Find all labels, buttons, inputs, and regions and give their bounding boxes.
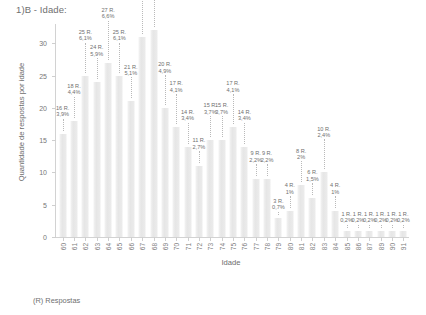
footer-note: (R) Respostas <box>33 296 80 305</box>
bar-group[interactable]: 7211 R.2,7% <box>193 24 204 237</box>
x-axis-tick <box>97 237 98 241</box>
bar[interactable] <box>309 198 316 237</box>
bar-group[interactable]: 793 R.0,7% <box>273 24 284 237</box>
bar-percent-label: 6,1% <box>113 35 126 41</box>
x-axis-tick <box>392 237 393 241</box>
bar-group[interactable]: 911 R.0,2% <box>398 24 409 237</box>
bar-group[interactable]: 6832 R.7,8% <box>148 24 159 237</box>
bar[interactable] <box>332 211 339 237</box>
bar[interactable] <box>93 82 100 237</box>
bar[interactable] <box>184 147 191 237</box>
bar[interactable] <box>82 76 89 237</box>
x-axis-tick-label: 80 <box>286 243 293 250</box>
bar-group[interactable]: 7315 R.3,7% <box>205 24 216 237</box>
bar-value-label: 9 R.2,2% <box>261 150 274 163</box>
y-axis-tick-label: 10 <box>39 172 47 173</box>
bar[interactable] <box>105 63 112 237</box>
x-axis-tick-label: 74 <box>218 243 225 250</box>
bar[interactable] <box>252 179 259 237</box>
bar[interactable] <box>150 30 157 237</box>
bar[interactable] <box>286 211 293 237</box>
bar[interactable] <box>229 127 236 237</box>
label-leader-line <box>301 161 302 182</box>
label-leader-line <box>85 43 86 73</box>
label-leader-line <box>222 116 223 137</box>
bar[interactable] <box>139 37 146 237</box>
bar-group[interactable]: 6118 R.4,4% <box>68 24 79 237</box>
bar-group[interactable]: 6324 R.5,9% <box>91 24 102 237</box>
bar[interactable] <box>161 108 168 237</box>
bar-group[interactable]: 7517 R.4,1% <box>227 24 238 237</box>
bar[interactable] <box>241 147 248 237</box>
bar[interactable] <box>59 134 66 237</box>
bar-value-label: 24 R.5,9% <box>90 44 103 57</box>
x-axis-tick-label: 79 <box>275 243 282 250</box>
bar-group[interactable]: 6525 R.6,1% <box>114 24 125 237</box>
bar-group[interactable]: 6016 R.3,9% <box>57 24 68 237</box>
bar[interactable] <box>127 101 134 237</box>
label-leader-line <box>210 116 211 137</box>
x-axis-tick-label: 78 <box>264 243 271 250</box>
bar-group[interactable]: 851 R.0,2% <box>341 24 352 237</box>
bar[interactable] <box>71 121 78 237</box>
x-axis-tick-label: 71 <box>184 243 191 250</box>
x-axis-tick <box>210 237 211 241</box>
bar[interactable] <box>298 185 305 237</box>
x-axis-tick <box>165 237 166 241</box>
bar-group[interactable]: 861 R.0,2% <box>352 24 363 237</box>
x-axis-tick <box>119 237 120 241</box>
y-axis-tick: 5 <box>52 205 56 206</box>
bar-group[interactable]: 6920 R.4,9% <box>159 24 170 237</box>
bar[interactable] <box>173 127 180 237</box>
bar[interactable] <box>195 166 202 237</box>
bar-group[interactable]: 8310 R.2,4% <box>318 24 329 237</box>
bar[interactable] <box>275 218 282 237</box>
bar[interactable] <box>116 76 123 237</box>
bar-value-label: 14 R.3,4% <box>238 109 251 122</box>
bar-value-label: 25 R.6,1% <box>79 29 92 42</box>
bar-group[interactable]: 818 R.2% <box>295 24 306 237</box>
label-leader-line <box>312 183 313 195</box>
bar-group[interactable]: 7415 R.3,7% <box>216 24 227 237</box>
x-axis-tick-label: 67 <box>139 243 146 250</box>
bar-group[interactable]: 7614 R.3,4% <box>239 24 250 237</box>
bar-group[interactable]: 6427 R.6,6% <box>102 24 113 237</box>
x-axis-tick-label: 63 <box>93 243 100 250</box>
bar-group[interactable]: 779 R.2,2% <box>250 24 261 237</box>
bar-value-label: 3 R.0,7% <box>272 198 285 211</box>
bar-percent-label: 6,6% <box>101 13 114 19</box>
y-axis-tick-label: 30 <box>39 43 47 44</box>
bar-group[interactable]: 844 R.1% <box>330 24 341 237</box>
bar-percent-label: 5,1% <box>124 70 137 76</box>
bar-group[interactable]: 891 R.0,2% <box>375 24 386 237</box>
bar-group[interactable]: 7114 R.3,4% <box>182 24 193 237</box>
bar-value-label: 20 R.4,9% <box>158 61 171 74</box>
bar-percent-label: 3,9% <box>56 111 69 117</box>
x-axis-tick <box>176 237 177 241</box>
chart-page: 1)B - Idade: Quantidade de respostas por… <box>0 0 426 315</box>
bar[interactable] <box>218 140 225 237</box>
x-axis-tick <box>188 237 189 241</box>
x-axis-tick <box>324 237 325 241</box>
bar[interactable] <box>264 179 271 237</box>
bar-group[interactable]: 901 R.0,2% <box>386 24 397 237</box>
bar-group[interactable]: 871 R.0,2% <box>364 24 375 237</box>
bar-value-label: 1 R.0,2% <box>397 211 410 224</box>
x-axis-tick <box>403 237 404 241</box>
bar-percent-label: 2,7% <box>192 144 205 150</box>
bar-group[interactable]: 6731 R.7,6% <box>136 24 147 237</box>
bar-percent-label: 3,4% <box>238 115 251 121</box>
y-axis-tick-label: 5 <box>43 205 47 206</box>
x-axis-tick-label: 77 <box>252 243 259 250</box>
bar-value-label: 16 R.3,9% <box>56 105 69 118</box>
x-axis-tick-label: 86 <box>354 243 361 250</box>
bar-group[interactable]: 789 R.2,2% <box>261 24 272 237</box>
label-leader-line <box>392 225 393 228</box>
bar-group[interactable]: 804 R.1% <box>284 24 295 237</box>
bar-group[interactable]: 7017 R.4,1% <box>171 24 182 237</box>
bar[interactable] <box>320 172 327 237</box>
label-leader-line <box>403 225 404 228</box>
bar[interactable] <box>207 140 214 237</box>
x-axis-tick-label: 89 <box>377 243 384 250</box>
bar-group[interactable]: 6621 R.5,1% <box>125 24 136 237</box>
